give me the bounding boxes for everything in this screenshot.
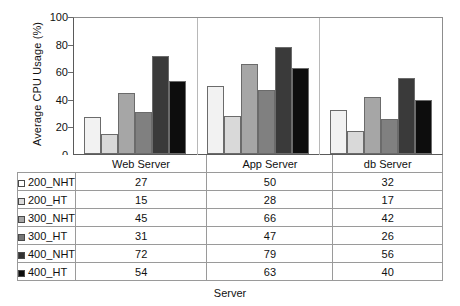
bar-200_ht-web-server bbox=[101, 134, 118, 154]
table-value-cell: 56 bbox=[333, 245, 443, 263]
table-value-cell: 45 bbox=[76, 209, 207, 227]
bar-400_ht-db-server bbox=[415, 100, 432, 154]
bar-200_nht-app-server bbox=[207, 86, 224, 154]
group-separator bbox=[319, 18, 320, 156]
legend-swatch-icon bbox=[18, 252, 25, 259]
bar-300_nht-db-server bbox=[364, 97, 381, 154]
plot-area bbox=[73, 17, 443, 155]
legend-label: 300_NHT bbox=[28, 212, 75, 224]
x-axis-title: Server bbox=[0, 287, 460, 299]
table-value-cell: 17 bbox=[333, 191, 443, 209]
y-tick-label-100: 100 bbox=[42, 12, 68, 22]
legend-cell-400_ht: 400_HT bbox=[18, 263, 76, 281]
table-header-row: Web ServerApp Serverdb Server bbox=[18, 155, 443, 173]
table-value-cell: 28 bbox=[207, 191, 333, 209]
legend-swatch-icon bbox=[18, 180, 25, 187]
legend-cell-200_ht: 200_HT bbox=[18, 191, 76, 209]
bar-200_nht-db-server bbox=[330, 110, 347, 154]
legend-swatch-icon bbox=[18, 198, 25, 205]
table-column-header-db-server: db Server bbox=[333, 155, 443, 173]
legend-cell-300_ht: 300_HT bbox=[18, 227, 76, 245]
table-row: 400_NHT727956 bbox=[18, 245, 443, 263]
bar-400_ht-app-server bbox=[292, 68, 309, 154]
table-value-cell: 31 bbox=[76, 227, 207, 245]
bar-400_nht-web-server bbox=[152, 56, 169, 154]
table-value-cell: 42 bbox=[333, 209, 443, 227]
y-tick-label-80: 80 bbox=[42, 40, 68, 50]
table-value-cell: 50 bbox=[207, 173, 333, 191]
table-value-cell: 66 bbox=[207, 209, 333, 227]
table-row: 300_HT314726 bbox=[18, 227, 443, 245]
group-separator bbox=[197, 18, 198, 156]
table-value-cell: 27 bbox=[76, 173, 207, 191]
bar-200_ht-app-server bbox=[224, 116, 241, 154]
legend-swatch-icon bbox=[18, 270, 25, 277]
bar-300_nht-app-server bbox=[241, 64, 258, 154]
legend-cell-400_nht: 400_NHT bbox=[18, 245, 76, 263]
table-row: 400_HT546340 bbox=[18, 263, 443, 281]
bar-300_nht-web-server bbox=[118, 93, 135, 154]
table-row: 300_NHT456642 bbox=[18, 209, 443, 227]
legend-label: 400_NHT bbox=[28, 248, 75, 260]
bar-300_ht-db-server bbox=[381, 119, 398, 154]
y-tick-label-20: 20 bbox=[42, 122, 68, 132]
legend-label: 300_HT bbox=[28, 230, 67, 242]
bar-400_ht-web-server bbox=[169, 81, 186, 154]
legend-cell-200_nht: 200_NHT bbox=[18, 173, 76, 191]
y-axis-title: Average CPU Usage (%) bbox=[31, 9, 43, 159]
table-corner-cell bbox=[18, 155, 76, 173]
table-value-cell: 47 bbox=[207, 227, 333, 245]
legend-label: 400_HT bbox=[28, 266, 67, 278]
data-table: Web ServerApp Serverdb Server 200_NHT275… bbox=[17, 155, 443, 281]
y-tick-label-40: 40 bbox=[42, 95, 68, 105]
legend-swatch-icon bbox=[18, 234, 25, 241]
legend-label: 200_HT bbox=[28, 194, 67, 206]
legend-swatch-icon bbox=[18, 216, 25, 223]
legend-cell-300_nht: 300_NHT bbox=[18, 209, 76, 227]
bar-400_nht-app-server bbox=[275, 47, 292, 154]
table-value-cell: 15 bbox=[76, 191, 207, 209]
y-tick-label-60: 60 bbox=[42, 67, 68, 77]
table-row: 200_NHT275032 bbox=[18, 173, 443, 191]
table-value-cell: 79 bbox=[207, 245, 333, 263]
table-value-cell: 54 bbox=[76, 263, 207, 281]
table-value-cell: 40 bbox=[333, 263, 443, 281]
table-body: 200_NHT275032200_HT152817300_NHT45664230… bbox=[18, 173, 443, 281]
bar-200_ht-db-server bbox=[347, 131, 364, 154]
table-value-cell: 32 bbox=[333, 173, 443, 191]
bar-200_nht-web-server bbox=[84, 117, 101, 154]
legend-label: 200_NHT bbox=[28, 176, 75, 188]
bar-400_nht-db-server bbox=[398, 78, 415, 154]
table-value-cell: 72 bbox=[76, 245, 207, 263]
table-column-header-app-server: App Server bbox=[207, 155, 333, 173]
table-row: 200_HT152817 bbox=[18, 191, 443, 209]
table-header: Web ServerApp Serverdb Server bbox=[18, 155, 443, 173]
bar-chart-figure: Average CPU Usage (%) 100806040200 Web S… bbox=[0, 0, 460, 306]
table-value-cell: 26 bbox=[333, 227, 443, 245]
table-value-cell: 63 bbox=[207, 263, 333, 281]
bar-300_ht-app-server bbox=[258, 90, 275, 154]
table-column-header-web-server: Web Server bbox=[76, 155, 207, 173]
bar-300_ht-web-server bbox=[135, 112, 152, 154]
